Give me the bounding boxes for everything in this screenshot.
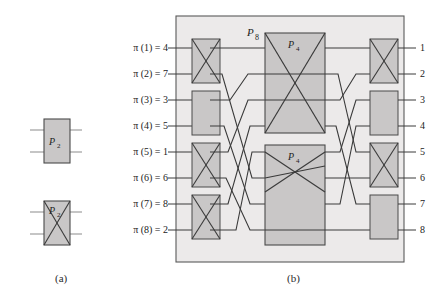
- panel-a: P 2 P 2: [30, 119, 82, 245]
- panel-b: P 8: [168, 16, 416, 262]
- figure-canvas: P 2 P 2 P 8: [0, 0, 439, 306]
- right-switch-4-box: [370, 195, 398, 239]
- left-switch-2-box: [192, 91, 220, 135]
- input-label-8: π (8) = 2: [112, 224, 168, 235]
- p2-straight-label: P: [48, 136, 55, 147]
- output-label-1: 1: [420, 42, 425, 53]
- input-label-2: π (2) = 7: [112, 68, 168, 79]
- p2-crossed-label-sub: 2: [57, 211, 61, 219]
- p8-label: P: [246, 26, 254, 38]
- p8-label-sub: 8: [255, 33, 259, 42]
- input-label-6: π (6) = 6: [112, 172, 168, 183]
- p4-top-label: P: [287, 39, 294, 50]
- input-label-1: π (1) = 4: [112, 42, 168, 53]
- input-label-3: π (3) = 3: [112, 94, 168, 105]
- input-label-5: π (5) = 1: [112, 146, 168, 157]
- right-switch-2-box: [370, 91, 398, 135]
- output-label-5: 5: [420, 146, 425, 157]
- output-label-2: 2: [420, 68, 425, 79]
- p2-crossed-label: P: [48, 205, 55, 216]
- input-label-4: π (4) = 5: [112, 120, 168, 131]
- p2-straight-element: [30, 119, 82, 163]
- output-label-7: 7: [420, 198, 425, 209]
- p4-bottom-label-sub: 4: [296, 157, 300, 165]
- output-label-8: 8: [420, 224, 425, 235]
- output-label-6: 6: [420, 172, 425, 183]
- input-label-7: π (7) = 8: [112, 198, 168, 209]
- figure-permutation-network: P 2 P 2 P 8: [0, 0, 439, 306]
- p4-bottom-label: P: [287, 151, 294, 162]
- p2-crossed-element: [30, 201, 82, 245]
- p2-straight-box: [44, 119, 70, 163]
- caption-a: (a): [55, 272, 67, 284]
- p4-top-label-sub: 4: [296, 45, 300, 53]
- output-label-4: 4: [420, 120, 425, 131]
- p2-straight-label-sub: 2: [57, 142, 61, 150]
- caption-b: (b): [287, 272, 300, 284]
- output-label-3: 3: [420, 94, 425, 105]
